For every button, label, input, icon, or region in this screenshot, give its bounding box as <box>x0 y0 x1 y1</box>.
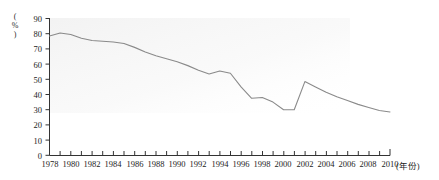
y-tick-label-40: 40 <box>26 90 42 100</box>
y-tick-label-20: 20 <box>26 120 42 130</box>
y-tick-label-80: 80 <box>26 29 42 39</box>
plot-background-tint <box>50 18 350 113</box>
y-tick-label-10: 10 <box>26 136 42 146</box>
chart-figure: ( % ) <box>0 0 439 180</box>
y-tick-label-70: 70 <box>26 44 42 54</box>
x-axis-unit-label: (年份) <box>396 159 420 171</box>
y-tick-label-50: 50 <box>26 75 42 85</box>
chart-plot <box>0 0 439 180</box>
y-tick-label-60: 60 <box>26 60 42 70</box>
y-tick-label-90: 90 <box>26 14 42 24</box>
y-tick-label-30: 30 <box>26 105 42 115</box>
x-axis-minor-ticks <box>60 151 380 156</box>
y-axis <box>46 18 50 156</box>
